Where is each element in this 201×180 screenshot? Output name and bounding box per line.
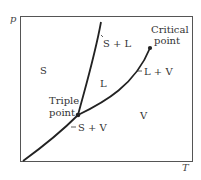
region-liquid-label: L — [100, 78, 107, 89]
phase-diagram: p T S L V S + L L + V S + V Triple point… — [0, 0, 201, 180]
solid-vapor-label: S + V — [78, 122, 108, 133]
critical-point-label-2: point — [154, 35, 180, 46]
solid-liquid-label: S + L — [103, 38, 132, 49]
region-vapor-label: V — [139, 110, 148, 121]
liquid-vapor-label: L + V — [144, 66, 173, 77]
triple-point-label-2: point — [49, 107, 75, 118]
critical-point-label-1: Critical — [151, 24, 189, 35]
y-axis-label: p — [10, 13, 17, 24]
critical-point-marker — [148, 46, 152, 50]
solid-liquid-curve — [78, 22, 101, 115]
sl-pointer-icon — [101, 35, 103, 37]
solid-vapor-curve — [23, 115, 78, 161]
triple-point-label-1: Triple — [49, 95, 79, 106]
x-axis-label: T — [182, 162, 190, 173]
region-solid-label: S — [40, 65, 47, 76]
triple-point-marker — [76, 113, 81, 118]
liquid-vapor-curve — [78, 48, 150, 115]
